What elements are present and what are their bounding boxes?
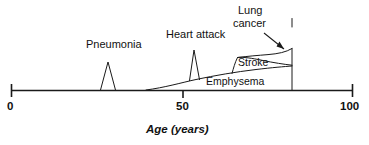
- label-stroke: Stroke: [238, 56, 269, 68]
- heart-attack-spike-path: [190, 50, 200, 81]
- x-axis-title: Age (years): [145, 123, 209, 135]
- label-emphysema: Emphysema: [206, 75, 265, 87]
- chart-canvas: Pneumonia Heart attack Lung cancer Strok…: [0, 0, 369, 145]
- label-lung-cancer-line2: cancer: [233, 17, 266, 29]
- label-heart-attack: Heart attack: [166, 28, 226, 40]
- label-pneumonia: Pneumonia: [86, 38, 143, 50]
- tick-label-100: 100: [340, 100, 359, 112]
- arrowhead: [277, 42, 285, 50]
- label-lung-cancer-line1: Lung: [238, 4, 262, 16]
- series-pneumonia: [101, 62, 116, 90]
- x-axis: [11, 84, 353, 98]
- mortality-age-chart: Pneumonia Heart attack Lung cancer Strok…: [0, 0, 369, 145]
- series-heart-attack: [190, 50, 200, 81]
- pneumonia-spike-path: [101, 62, 116, 90]
- lung-cancer-leader-arrow: [264, 33, 284, 49]
- tick-label-50: 50: [176, 100, 189, 112]
- tick-label-0: 0: [7, 100, 13, 112]
